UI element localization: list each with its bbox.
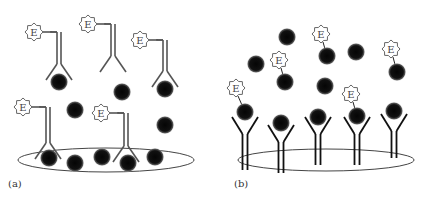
antigen-icon (388, 63, 406, 81)
enzyme-letter: E (30, 27, 37, 38)
antigen-icon (385, 102, 403, 120)
enzyme-label-icon: E (312, 25, 330, 43)
enzyme-letter: E (232, 83, 239, 94)
enzyme-letter: E (97, 108, 104, 119)
antigen-icon (347, 43, 365, 61)
enzyme-letter: E (317, 29, 324, 40)
antigen-icon (119, 154, 137, 172)
antigen-icon (309, 108, 327, 126)
capture-antibody-icon (232, 117, 258, 170)
antigen-icon (348, 107, 366, 125)
enzyme-label-icon: E (270, 51, 288, 69)
panel-label-a: (a) (8, 178, 22, 189)
enzyme-label-icon: E (14, 98, 32, 116)
enzyme-label-icon: E (342, 85, 360, 103)
antigen-icon (156, 80, 174, 98)
enzyme-label-icon: E (79, 15, 97, 33)
antigen-icon (66, 154, 84, 172)
enzyme-letter: E (347, 89, 354, 100)
panel-a: EEEEE (14, 15, 194, 172)
enzyme-letter: E (19, 102, 26, 113)
antigen-icon (50, 73, 68, 91)
enzyme-letter: E (136, 35, 143, 46)
labelled-antibody-icon: E (79, 15, 126, 72)
antigen-icon (236, 103, 254, 121)
antigen-icon (276, 73, 294, 91)
antigen-icon (318, 47, 336, 65)
enzyme-label-icon: E (131, 31, 149, 49)
enzyme-letter: E (387, 44, 394, 55)
antigen-icon (66, 101, 84, 119)
panel-label-b: (b) (234, 178, 248, 189)
antigen-icon (156, 116, 174, 134)
capture-antibody-icon (268, 125, 294, 173)
enzyme-letter: E (275, 55, 282, 66)
antigen-icon (93, 148, 111, 166)
panel-b: EEEEE (227, 25, 414, 173)
enzyme-label-icon: E (382, 40, 400, 58)
enzyme-label-icon: E (92, 104, 110, 122)
enzyme-label-icon: E (227, 79, 245, 97)
antigen-icon (146, 148, 164, 166)
enzyme-label-icon: E (25, 23, 43, 41)
antigen-icon (272, 114, 290, 132)
immunoassay-diagram: EEEEE EEEEE (0, 0, 426, 202)
labelled-antibody-icon: E (14, 98, 61, 159)
antigen-icon (278, 28, 296, 46)
labelled-antibody-icon: E (131, 31, 178, 98)
labelled-antibody-icon: E (25, 23, 72, 91)
enzyme-letter: E (84, 19, 91, 30)
antigen-icon (247, 55, 265, 73)
antigen-icon (316, 77, 334, 95)
surface-ellipse (238, 149, 414, 171)
antigen-icon (113, 83, 131, 101)
